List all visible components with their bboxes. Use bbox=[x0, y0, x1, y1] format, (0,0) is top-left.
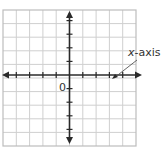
x-axis-right-arrow-icon bbox=[135, 72, 142, 79]
y-axis-up-arrow-icon bbox=[66, 11, 73, 18]
y-axis-down-arrow-icon bbox=[66, 137, 73, 144]
x-axis-callout-label: x-axis bbox=[127, 46, 161, 59]
origin-label: 0 bbox=[59, 81, 66, 94]
callout-rest: -axis bbox=[135, 46, 161, 59]
coordinate-plane: 0 x-axis bbox=[0, 0, 165, 158]
